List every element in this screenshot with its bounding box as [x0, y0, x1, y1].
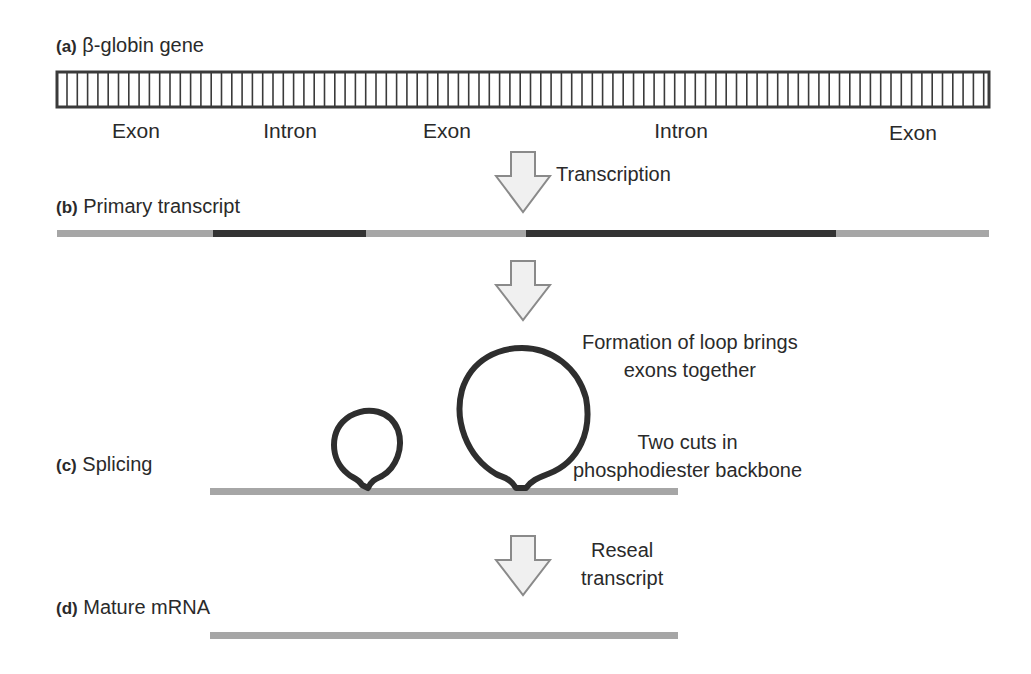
gene-segment-intron-1: Intron — [263, 119, 317, 143]
splicing-arrow-icon — [496, 261, 550, 320]
cuts-note: Two cuts in phosphodiester backbone — [573, 428, 802, 484]
loop-note-line-1: Formation of loop brings — [582, 328, 798, 356]
diagram-canvas — [0, 0, 1031, 674]
gene-segment-exon-2: Exon — [423, 119, 471, 143]
reseal-note-line-1: Reseal — [581, 536, 663, 564]
panel-b-tag: (b) — [56, 198, 78, 217]
transcription-arrow-icon — [496, 152, 550, 212]
loop-note-line-2: exons together — [582, 356, 798, 384]
small-intron-loop — [334, 411, 400, 488]
panel-b-label: (b) Primary transcript — [56, 195, 240, 218]
panel-c-label: (c) Splicing — [56, 453, 152, 476]
panel-a-title: β-globin gene — [82, 34, 204, 56]
mature-mrna-bar — [210, 632, 678, 639]
panel-b-title: Primary transcript — [83, 195, 240, 217]
panel-a-tag: (a) — [56, 37, 77, 56]
panel-d-label: (d) Mature mRNA — [56, 596, 210, 619]
gene-segment-exon-1: Exon — [112, 119, 160, 143]
panel-d-title: Mature mRNA — [83, 596, 210, 618]
cuts-note-line-1: Two cuts in — [573, 428, 802, 456]
large-intron-loop — [460, 348, 588, 488]
primary-transcript-bar — [57, 230, 989, 237]
reseal-note-line-2: transcript — [581, 564, 663, 592]
panel-a-label: (a) β-globin gene — [56, 34, 204, 57]
cuts-note-line-2: phosphodiester backbone — [573, 456, 802, 484]
transcription-label: Transcription — [556, 163, 671, 186]
loop-formation-note: Formation of loop brings exons together — [582, 328, 798, 384]
gene-segment-intron-2: Intron — [654, 119, 708, 143]
reseal-arrow-icon — [496, 536, 550, 595]
gene-segment-exon-3: Exon — [889, 121, 937, 145]
panel-d-tag: (d) — [56, 599, 78, 618]
panel-c-tag: (c) — [56, 456, 77, 475]
splicing-strand — [210, 488, 678, 495]
dna-ladder — [57, 72, 989, 107]
panel-c-title: Splicing — [82, 453, 152, 475]
reseal-note: Reseal transcript — [581, 536, 663, 592]
